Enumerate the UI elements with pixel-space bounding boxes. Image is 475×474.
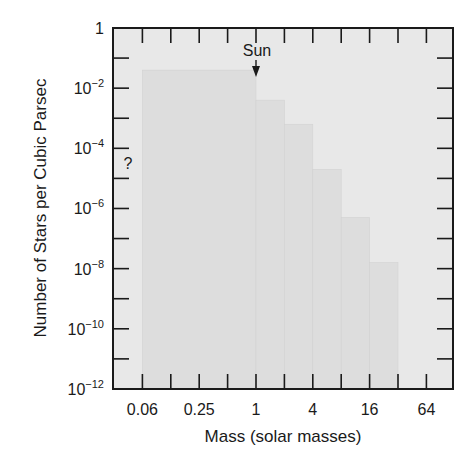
x-tick-label: 0.06 xyxy=(127,401,158,418)
x-tick-label: 16 xyxy=(361,401,379,418)
y-tick-label: 10−4 xyxy=(74,137,104,157)
histogram-bar xyxy=(284,124,312,389)
x-tick-label: 1 xyxy=(252,401,261,418)
y-axis-title: Number of Stars per Cubic Parsec xyxy=(31,78,50,337)
y-tick-label: 10−12 xyxy=(68,378,104,398)
y-tick-label: 10−8 xyxy=(74,258,104,278)
y-tick-label: 1 xyxy=(95,20,104,37)
x-tick-labels: 0.060.25141664 xyxy=(127,401,436,418)
chart: 0.060.25141664 110−210−410−610−810−1010−… xyxy=(0,0,475,474)
sun-label: Sun xyxy=(243,42,271,59)
x-axis-title: Mass (solar masses) xyxy=(205,427,362,446)
y-tick-label: 10−6 xyxy=(74,197,104,217)
histogram-bar xyxy=(142,70,256,389)
y-tick-label: 10−2 xyxy=(74,77,104,97)
x-tick-label: 4 xyxy=(308,401,317,418)
histogram-bar xyxy=(256,100,284,389)
y-tick-labels: 110−210−410−610−810−1010−12 xyxy=(68,20,105,398)
histogram-bar xyxy=(313,169,341,389)
histogram-bar xyxy=(341,218,369,389)
unknown-marker: ? xyxy=(124,155,133,172)
x-tick-label: 64 xyxy=(418,401,436,418)
histogram-bar xyxy=(370,263,398,389)
x-tick-label: 0.25 xyxy=(184,401,215,418)
y-tick-label: 10−10 xyxy=(68,318,104,338)
